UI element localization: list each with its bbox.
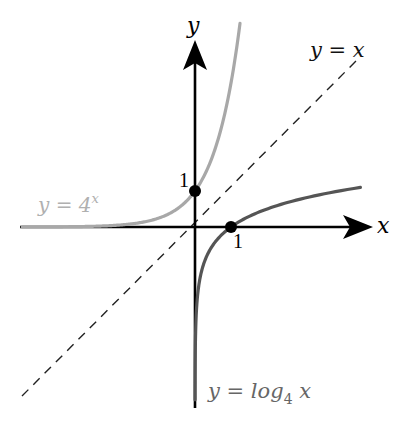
- x-axis-label: x: [377, 213, 390, 238]
- exponential-label-exponent: x: [92, 191, 100, 206]
- logarithm-label-base: 4: [284, 391, 293, 407]
- y-axis-label: y: [186, 13, 200, 38]
- point-0-1: [189, 185, 201, 197]
- identity-line-label: y = x: [309, 38, 365, 62]
- logarithm-curve: [195, 187, 360, 399]
- exponential-curve-label: y = 4x: [37, 191, 100, 217]
- x-intercept-label: 1: [233, 230, 243, 252]
- logarithm-label-main: y = log: [207, 379, 284, 403]
- logarithm-label-tail: x: [293, 379, 312, 403]
- function-graph: 1 1 y x y = x y = 4x y = log4 x: [0, 0, 403, 431]
- exponential-label-base: y = 4: [37, 193, 92, 217]
- y-intercept-label: 1: [179, 169, 189, 191]
- logarithm-curve-label: y = log4 x: [207, 379, 311, 407]
